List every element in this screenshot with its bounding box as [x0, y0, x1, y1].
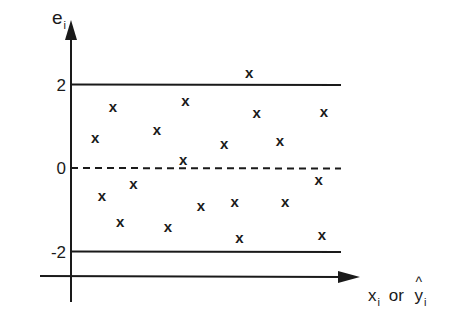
- data-point-x-marker: x: [153, 121, 162, 138]
- data-point-x-marker: x: [181, 92, 190, 109]
- data-point-x-marker: x: [315, 171, 324, 188]
- y-label-subscript: i: [64, 19, 66, 31]
- x-label-or: or: [389, 286, 404, 305]
- data-point-x-marker: x: [197, 197, 206, 214]
- hat-icon: ^: [416, 274, 423, 290]
- data-point-x-marker: x: [320, 103, 329, 120]
- data-point-x-marker: x: [276, 132, 285, 149]
- x-axis-arrow-icon: [338, 271, 360, 283]
- x-label-x: x: [368, 286, 377, 305]
- data-point-x-marker: x: [109, 98, 118, 115]
- x-label-x-subscript: i: [378, 296, 380, 308]
- data-point-x-marker: x: [129, 175, 138, 192]
- data-point-x-marker: x: [164, 218, 173, 235]
- y-tick-label: 0: [57, 159, 66, 178]
- data-point-x-marker: x: [179, 151, 188, 168]
- y-tick-label: -2: [51, 243, 66, 262]
- data-point-x-marker: x: [91, 129, 100, 146]
- data-point-x-marker: x: [98, 187, 107, 204]
- data-point-x-marker: x: [231, 193, 240, 210]
- data-point-x-marker: x: [281, 193, 290, 210]
- data-points: xxxxxxxxxxxxxxxxxxxx: [91, 64, 329, 246]
- data-point-x-marker: x: [318, 226, 327, 243]
- y-label-e: e: [52, 7, 63, 28]
- data-point-x-marker: x: [235, 229, 244, 246]
- y-axis-arrow-icon: [65, 20, 77, 40]
- y-axis-label: ei: [52, 7, 66, 29]
- x-label-yhat: ^y: [415, 286, 424, 306]
- data-point-x-marker: x: [220, 135, 229, 152]
- reference-line-0: [71, 168, 341, 169]
- x-axis: [40, 276, 340, 277]
- x-label-y-subscript: i: [424, 296, 426, 308]
- y-ticks: 20-2: [51, 76, 66, 262]
- residual-plot: 20-2 xxxxxxxxxxxxxxxxxxxx: [0, 0, 454, 329]
- data-point-x-marker: x: [253, 104, 262, 121]
- y-tick-label: 2: [57, 76, 66, 95]
- data-point-x-marker: x: [116, 213, 125, 230]
- x-axis-label: xi or ^yi: [368, 286, 427, 306]
- data-point-x-marker: x: [245, 64, 254, 81]
- reference-line-2: [71, 85, 341, 86]
- reference-line--2: [71, 252, 341, 253]
